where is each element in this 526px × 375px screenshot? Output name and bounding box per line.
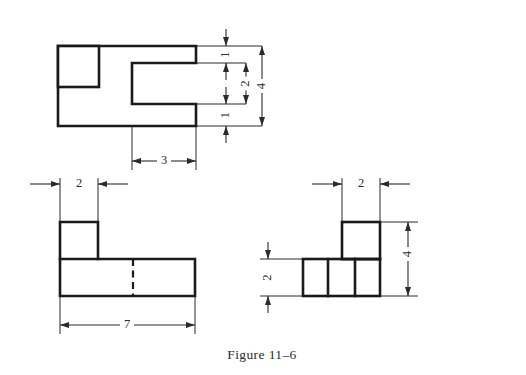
top-view-inner-rect xyxy=(58,46,99,87)
side-view-base-rect xyxy=(303,259,380,296)
top-width-notch-3-arrow-right xyxy=(187,158,196,164)
side-height-2-arrow-bottom xyxy=(265,296,271,305)
front-view xyxy=(60,222,195,296)
side-width-2-arrow-left xyxy=(333,181,342,187)
top-height-lower-1-arrow-bottom xyxy=(223,126,229,135)
side-height-overall-4-arrow-top xyxy=(405,222,411,231)
figure-page: 1124327224 Figure 11–6 xyxy=(0,0,526,375)
top-height-overall-4-arrow-top xyxy=(259,46,265,55)
top-width-notch-3-arrow-left xyxy=(132,158,141,164)
front-width-overall-7-label: 7 xyxy=(124,317,130,331)
top-height-upper-1-label: 1 xyxy=(218,51,232,57)
top-height-middle-2-arrow-bottom xyxy=(243,95,249,104)
top-height-middle-2-arrow-top xyxy=(243,63,249,72)
front-width-step-2-label: 2 xyxy=(76,176,82,190)
top-height-upper-1-arrow-top xyxy=(223,37,229,46)
side-height-2-arrow-top xyxy=(265,250,271,259)
top-height-lower-1-label: 1 xyxy=(218,112,232,118)
top-height-overall-4-label: 4 xyxy=(254,82,268,89)
top-height-upper-1-arrow-bottom xyxy=(223,63,229,72)
top-view xyxy=(58,46,196,126)
top-width-notch-3-label: 3 xyxy=(161,153,167,167)
top-height-lower-1-arrow-top xyxy=(223,95,229,104)
figure-caption: Figure 11–6 xyxy=(227,347,297,362)
side-width-2-label: 2 xyxy=(358,176,364,190)
front-width-step-2-arrow-left xyxy=(51,181,60,187)
side-width-2-arrow-right xyxy=(380,181,389,187)
front-width-step-2-arrow-right xyxy=(98,181,107,187)
front-width-overall-7-arrow-right xyxy=(186,322,195,328)
side-view xyxy=(303,222,380,296)
side-view-upper-rect xyxy=(342,222,380,259)
top-height-overall-4-arrow-bottom xyxy=(259,117,265,126)
front-width-overall-7-arrow-left xyxy=(60,322,69,328)
side-height-2-label: 2 xyxy=(260,274,274,280)
orthographic-drawing: 1124327224 Figure 11–6 xyxy=(0,0,526,375)
top-height-middle-2-label: 2 xyxy=(238,80,252,86)
side-height-overall-4-label: 4 xyxy=(400,250,414,257)
side-height-overall-4-arrow-bottom xyxy=(405,287,411,296)
